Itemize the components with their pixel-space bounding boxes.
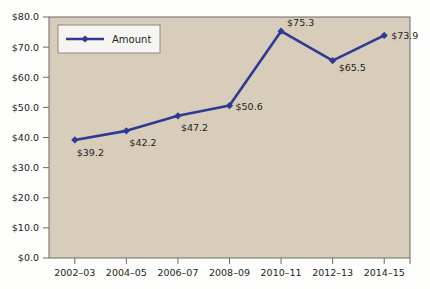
data-point-label: $75.3 (287, 17, 314, 28)
y-tick-label: $50.0 (12, 102, 39, 113)
y-tick-label: $40.0 (12, 132, 39, 143)
chart-svg: $0.0$10.0$20.0$30.0$40.0$50.0$60.0$70.0$… (0, 0, 430, 289)
data-point-label: $42.2 (129, 137, 156, 148)
y-tick-label: $70.0 (12, 42, 39, 53)
data-point-label: $65.5 (339, 62, 366, 73)
x-tick-label: 2008–09 (209, 267, 250, 278)
y-tick-label: $0.0 (18, 252, 39, 263)
chart-legend[interactable]: Amount (58, 25, 160, 53)
x-tick-label: 2002–03 (54, 267, 95, 278)
data-point-label: $47.2 (181, 122, 208, 133)
x-tick-label: 2014–15 (364, 267, 405, 278)
x-tick-label: 2004–05 (106, 267, 147, 278)
y-tick-label: $10.0 (12, 222, 39, 233)
y-tick-label: $80.0 (12, 11, 39, 22)
y-tick-label: $60.0 (12, 72, 39, 83)
y-tick-label: $20.0 (12, 192, 39, 203)
data-point-label: $73.9 (391, 30, 418, 41)
x-tick-label: 2006–07 (157, 267, 198, 278)
data-point-label: $50.6 (236, 101, 263, 112)
x-tick-label: 2010–11 (261, 267, 302, 278)
line-chart: $0.0$10.0$20.0$30.0$40.0$50.0$60.0$70.0$… (0, 0, 430, 289)
legend-entry-label: Amount (112, 34, 151, 45)
x-tick-label: 2012–13 (312, 267, 353, 278)
data-point-label: $39.2 (77, 147, 104, 158)
y-tick-label: $30.0 (12, 162, 39, 173)
